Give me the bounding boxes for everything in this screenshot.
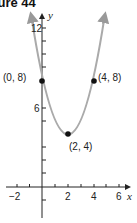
x-axis-label: x [126,190,132,202]
y-axis [42,16,46,218]
point-0-8 [39,78,45,84]
x-tick-label-4: 4 [91,191,97,202]
y-axis-label: y [47,9,53,21]
label-point-2-4: (2, 4) [69,141,92,152]
y-tick-label-6: 6 [34,103,40,114]
point-4-8 [91,78,97,84]
x-axis [6,184,128,187]
point-2-4 [65,131,71,137]
label-point-0-8: (0, 8) [3,72,26,83]
parabola-chart: (0, 8) (2, 4) (4, 8) −2 2 4 6 x 6 12 y [0,0,137,223]
y-tick-label-12: 12 [31,23,43,34]
x-tick-label-2: 2 [65,191,71,202]
x-tick-label-6: 6 [116,191,122,202]
label-point-4-8: (4, 8) [98,72,121,83]
x-tick-label-neg2: −2 [9,191,21,202]
